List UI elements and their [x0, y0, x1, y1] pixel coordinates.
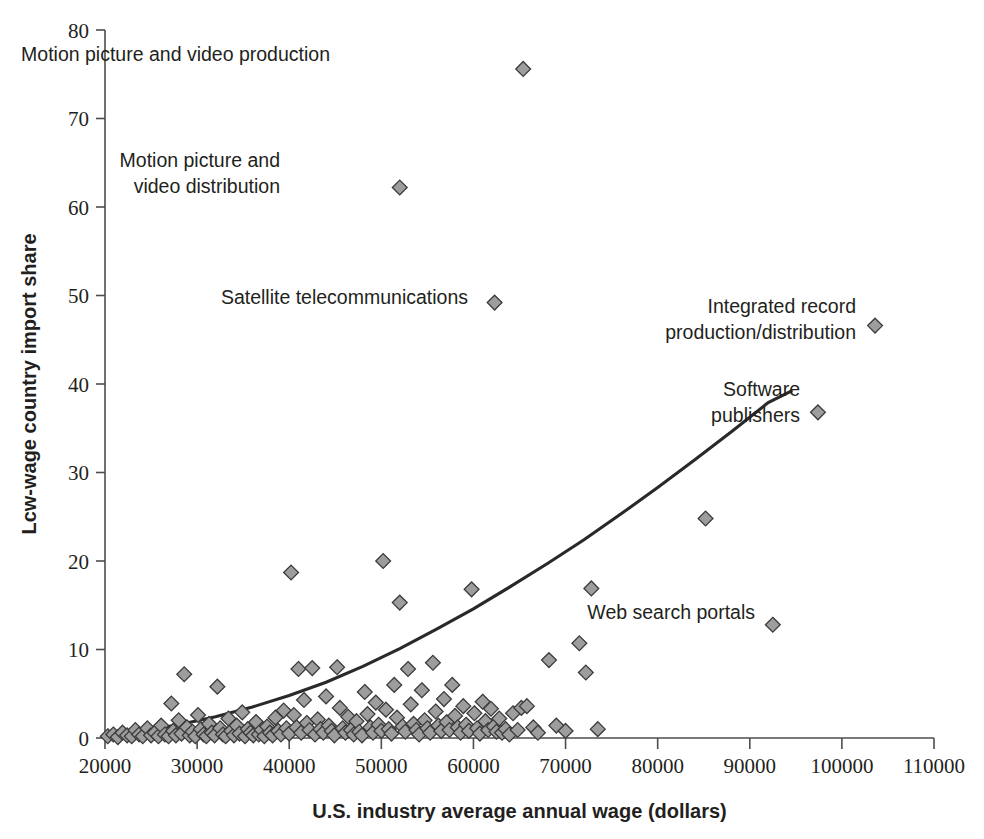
chart-canvas: 0102030405060708020000300004000050000600…	[0, 0, 984, 839]
annotation-label: production/distribution	[665, 321, 856, 343]
highlighted-point-marker	[868, 318, 883, 333]
highlighted-point-marker	[765, 617, 780, 632]
scatter-chart: 0102030405060708020000300004000050000600…	[0, 0, 984, 839]
y-axis-title: Lcw-wage country import share	[18, 233, 40, 534]
y-tick-label: 60	[68, 196, 89, 220]
x-tick-label: 40000	[263, 754, 316, 778]
data-point-marker	[426, 655, 441, 670]
data-point-marker	[164, 696, 179, 711]
annotation-label: publishers	[711, 404, 800, 426]
data-point-marker	[445, 678, 460, 693]
data-point-marker	[284, 565, 299, 580]
data-point-marker	[376, 554, 391, 569]
data-point-marker	[584, 581, 599, 596]
data-point-marker	[210, 679, 225, 694]
annotation-label: Web search portals	[587, 601, 755, 623]
x-tick-label: 90000	[724, 754, 777, 778]
y-tick-label: 50	[68, 284, 89, 308]
highlighted-point-marker	[487, 295, 502, 310]
data-point-marker	[403, 697, 418, 712]
x-tick-label: 30000	[171, 754, 224, 778]
data-point-marker	[542, 653, 557, 668]
x-tick-label: 110000	[903, 754, 965, 778]
data-point-marker	[357, 685, 372, 700]
y-tick-label: 70	[68, 107, 89, 131]
annotation-label: Satellite telecommunications	[221, 286, 468, 308]
x-tick-label: 70000	[539, 754, 592, 778]
data-point-marker	[392, 595, 407, 610]
data-point-marker	[330, 660, 345, 675]
data-point-marker	[291, 662, 306, 677]
highlighted-point-marker	[811, 405, 826, 420]
annotation-label: Motion picture and video production	[21, 43, 330, 65]
data-point-marker	[401, 662, 416, 677]
annotation-label: video distribution	[134, 175, 280, 197]
y-tick-label: 30	[68, 461, 89, 485]
data-point-marker	[698, 511, 713, 526]
y-tick-label: 20	[68, 550, 89, 574]
annotation-label: Software	[723, 378, 800, 400]
data-point-marker	[319, 689, 334, 704]
axes: 0102030405060708020000300004000050000600…	[68, 19, 965, 779]
data-point-marker	[578, 665, 593, 680]
highlighted-point-marker	[392, 180, 407, 195]
x-tick-label: 80000	[631, 754, 684, 778]
data-point-marker	[387, 678, 402, 693]
data-point-marker	[464, 582, 479, 597]
data-point-marker	[428, 704, 443, 719]
annotations: Motion picture and video productionMotio…	[21, 43, 856, 623]
x-axis-title: U.S. industry average annual wage (dolla…	[312, 800, 727, 822]
data-point-marker	[572, 636, 587, 651]
annotation-label: Motion picture and	[120, 149, 280, 171]
data-point-marker	[590, 722, 605, 737]
data-point-marker	[437, 692, 452, 707]
data-point-marker	[414, 683, 429, 698]
x-tick-label: 100000	[810, 754, 873, 778]
data-point-marker	[305, 661, 320, 676]
y-tick-label: 40	[68, 373, 89, 397]
y-tick-label: 0	[79, 727, 90, 751]
x-tick-label: 50000	[355, 754, 408, 778]
x-tick-label: 20000	[79, 754, 132, 778]
x-tick-label: 60000	[447, 754, 500, 778]
data-point-marker	[177, 667, 192, 682]
data-point-marker	[297, 693, 312, 708]
annotation-label: Integrated record	[707, 295, 856, 317]
y-tick-label: 10	[68, 638, 89, 662]
y-tick-label: 80	[68, 19, 89, 43]
highlighted-point-marker	[516, 62, 531, 77]
